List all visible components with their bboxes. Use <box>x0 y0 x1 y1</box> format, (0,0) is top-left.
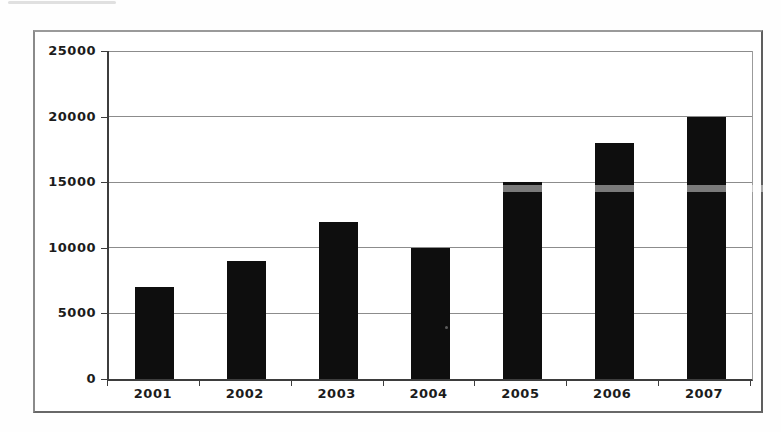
y-axis-label-25000: 25000 <box>26 44 96 58</box>
bar-2006 <box>595 143 634 379</box>
x-axis-tick <box>291 381 292 386</box>
y-axis-label-15000: 15000 <box>26 175 96 189</box>
x-axis-tick <box>658 381 659 386</box>
bar-2002 <box>227 261 266 379</box>
x-axis-tick <box>107 381 108 386</box>
y-axis-label-10000: 10000 <box>26 241 96 255</box>
y-axis-label-0: 0 <box>26 372 96 386</box>
x-axis-label-2002: 2002 <box>203 387 287 401</box>
bar-2004 <box>411 248 450 379</box>
x-axis-tick <box>566 381 567 386</box>
x-axis-label-2003: 2003 <box>295 387 379 401</box>
gridline-20000 <box>109 116 752 117</box>
bar-2001 <box>135 287 174 379</box>
bar-2007 <box>687 117 726 379</box>
x-axis-label-2004: 2004 <box>387 387 471 401</box>
y-axis-label-5000: 5000 <box>26 306 96 320</box>
x-axis-tick <box>383 381 384 386</box>
x-axis-tick <box>750 381 751 386</box>
y-axis-tick <box>101 117 107 118</box>
x-axis-tick <box>199 381 200 386</box>
gridline-15000 <box>109 182 752 183</box>
y-axis-tick <box>101 248 107 249</box>
y-axis-label-20000: 20000 <box>26 110 96 124</box>
y-axis-tick <box>101 313 107 314</box>
x-axis-label-2007: 2007 <box>662 387 746 401</box>
scan-artifact-dot <box>445 326 448 329</box>
x-axis-label-2006: 2006 <box>570 387 654 401</box>
x-axis-label-2005: 2005 <box>478 387 562 401</box>
y-axis-tick <box>101 51 107 52</box>
gridline-25000 <box>109 51 752 52</box>
y-axis-tick <box>101 182 107 183</box>
x-axis-tick <box>474 381 475 386</box>
scanned-chart-page: 0500010000150002000025000 20012002200320… <box>0 0 781 432</box>
bar-2003 <box>319 222 358 379</box>
plot-area <box>107 51 753 381</box>
y-axis-tick <box>101 379 107 380</box>
x-axis-label-2001: 2001 <box>111 387 195 401</box>
scan-artifact-streak <box>8 1 116 4</box>
bar-2005 <box>503 182 542 379</box>
